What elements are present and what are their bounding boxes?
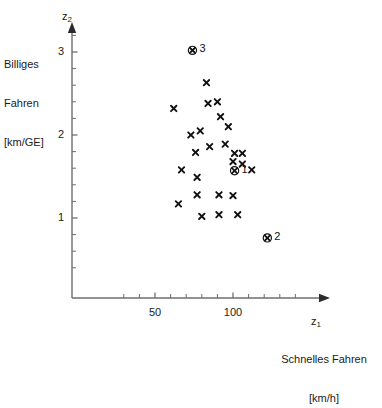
data-point-marker (230, 159, 235, 164)
x-axis-tick-label: 100 (213, 306, 253, 318)
x-axis-tick-label: 50 (135, 306, 175, 318)
data-point-marker (171, 106, 176, 111)
x-axis-caption-line-2: [km/h] (268, 392, 380, 405)
data-point-marker (240, 151, 245, 156)
data-point-marker (235, 212, 240, 217)
highlighted-point-marker (230, 167, 238, 175)
y-axis-tick-label: 3 (42, 45, 64, 57)
data-point-marker (199, 214, 204, 219)
highlighted-point-label: 3 (199, 42, 205, 54)
highlighted-point-label: 2 (274, 230, 280, 242)
data-point-marker (230, 193, 235, 198)
data-point-marker (204, 80, 209, 85)
y-axis-variable-subscript: 2 (68, 15, 72, 24)
highlighted-point-marker (188, 46, 196, 54)
data-point-marker (232, 151, 237, 156)
highlighted-point-marker (263, 234, 271, 242)
y-axis-caption-line-3: [km/GE] (4, 136, 44, 149)
data-point-marker (226, 124, 231, 129)
data-point-marker (216, 192, 221, 197)
y-axis-tick-label: 2 (42, 128, 64, 140)
data-point-marker (194, 175, 199, 180)
data-point-marker (194, 192, 199, 197)
y-axis-variable: z2 (62, 10, 72, 24)
data-point-marker (193, 150, 198, 155)
x-axis-caption: Schnelles Fahren [km/h] (268, 327, 380, 408)
axis-lines (68, 22, 330, 302)
x-axis-caption-line-1: Schnelles Fahren (268, 353, 380, 366)
y-axis-caption: Billiges Fahren [km/GE] (4, 32, 44, 175)
y-axis-caption-line-2: Fahren (4, 97, 44, 110)
data-point-marker (179, 167, 184, 172)
data-point-marker (188, 132, 193, 137)
data-point-marker (216, 212, 221, 217)
x-axis-arrowhead (319, 294, 330, 302)
data-markers (171, 80, 254, 219)
data-point-marker (215, 99, 220, 104)
data-point-marker (207, 144, 212, 149)
highlight-markers (188, 46, 271, 242)
data-point-marker (198, 128, 203, 133)
y-axis-caption-line-1: Billiges (4, 58, 44, 71)
data-point-marker (205, 101, 210, 106)
highlighted-point-label: 1 (242, 163, 248, 175)
data-point-marker (218, 114, 223, 119)
y-axis-tick-label: 1 (42, 211, 64, 223)
data-point-marker (249, 167, 254, 172)
data-point-marker (176, 201, 181, 206)
data-point-marker (223, 141, 228, 146)
